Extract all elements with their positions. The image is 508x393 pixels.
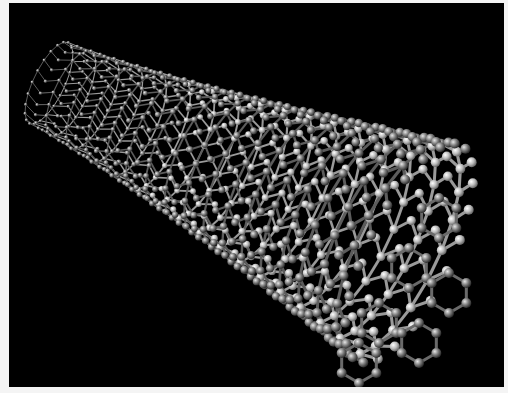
nanotube-render bbox=[9, 3, 504, 387]
image-frame bbox=[9, 3, 504, 387]
atom-lattice bbox=[23, 41, 477, 368]
